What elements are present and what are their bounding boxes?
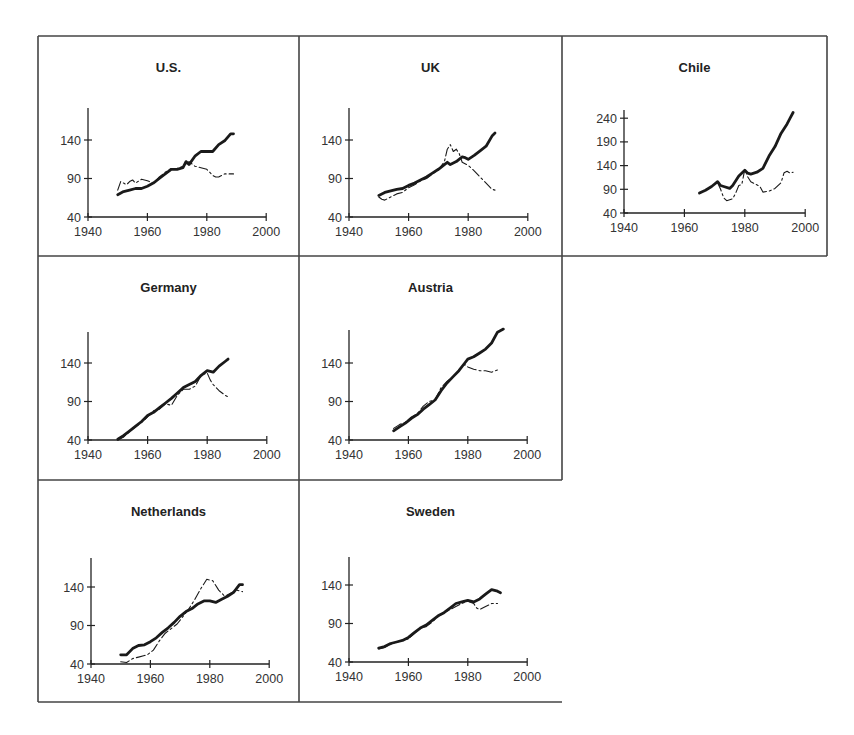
x-tick-label: 1980 <box>454 225 482 239</box>
y-tick-label: 140 <box>596 159 617 173</box>
y-tick-label: 190 <box>596 135 617 149</box>
line-chart: 40901401940196019802000 <box>38 256 299 480</box>
y-tick-label: 90 <box>328 395 342 409</box>
x-tick-label: 1940 <box>335 448 363 462</box>
line-chart: 40901401940196019802000 <box>38 36 299 256</box>
y-tick-label: 40 <box>328 211 342 225</box>
x-tick-label: 1980 <box>193 448 221 462</box>
line-chart: 40901401902401940196019802000 <box>562 36 827 256</box>
y-tick-label: 90 <box>328 617 342 631</box>
series-line-bold <box>118 359 228 439</box>
x-tick-label: 1940 <box>335 225 363 239</box>
x-tick-label: 1940 <box>610 221 638 235</box>
series-line-thin <box>121 579 243 662</box>
y-tick-label: 140 <box>321 357 342 371</box>
y-tick-label: 140 <box>63 581 84 595</box>
x-tick-label: 2000 <box>513 670 541 684</box>
series-line-bold <box>118 134 234 195</box>
y-tick-label: 40 <box>70 658 84 672</box>
x-tick-label: 1980 <box>454 448 482 462</box>
y-tick-label: 40 <box>67 211 81 225</box>
line-chart: 40901401940196019802000 <box>299 36 562 256</box>
y-tick-label: 40 <box>603 207 617 221</box>
x-tick-label: 1960 <box>394 670 422 684</box>
chart-panel-us: U.S.40901401940196019802000 <box>38 36 299 256</box>
y-tick-label: 90 <box>603 183 617 197</box>
line-chart: 40901401940196019802000 <box>38 480 299 702</box>
y-tick-label: 40 <box>328 434 342 448</box>
y-tick-label: 140 <box>60 357 81 371</box>
x-tick-label: 1980 <box>731 221 759 235</box>
y-tick-label: 90 <box>67 395 81 409</box>
chart-panel-sweden: Sweden40901401940196019802000 <box>299 480 562 702</box>
x-tick-label: 1980 <box>454 670 482 684</box>
x-tick-label: 1960 <box>395 225 423 239</box>
y-tick-label: 90 <box>67 172 81 186</box>
x-tick-label: 1940 <box>74 225 102 239</box>
y-tick-label: 140 <box>321 579 342 593</box>
series-line-thin <box>118 373 228 440</box>
y-tick-label: 140 <box>321 134 342 148</box>
x-tick-label: 2000 <box>255 672 283 686</box>
y-tick-label: 90 <box>70 619 84 633</box>
series-line-bold <box>379 590 501 649</box>
y-tick-label: 40 <box>328 656 342 670</box>
y-tick-label: 90 <box>328 172 342 186</box>
chart-panel-austria: Austria40901401940196019802000 <box>299 256 562 480</box>
x-tick-label: 2000 <box>513 448 541 462</box>
x-tick-label: 1960 <box>670 221 698 235</box>
x-tick-label: 1960 <box>136 672 164 686</box>
chart-panel-germany: Germany40901401940196019802000 <box>38 256 299 480</box>
chart-panel-netherlands: Netherlands40901401940196019802000 <box>38 480 299 702</box>
line-chart: 40901401940196019802000 <box>299 480 562 702</box>
y-tick-label: 140 <box>60 134 81 148</box>
x-tick-label: 1940 <box>77 672 105 686</box>
x-tick-label: 1940 <box>335 670 363 684</box>
x-tick-label: 2000 <box>791 221 819 235</box>
line-chart: 40901401940196019802000 <box>299 256 562 480</box>
x-tick-label: 2000 <box>514 225 542 239</box>
x-tick-label: 2000 <box>252 225 280 239</box>
chart-panel-uk: UK40901401940196019802000 <box>299 36 562 256</box>
x-tick-label: 1960 <box>394 448 422 462</box>
series-line-bold <box>379 133 495 195</box>
x-tick-label: 1960 <box>133 225 161 239</box>
chart-panel-chile: Chile40901401902401940196019802000 <box>562 36 827 256</box>
x-tick-label: 1960 <box>134 448 162 462</box>
y-tick-label: 40 <box>67 434 81 448</box>
x-tick-label: 1940 <box>74 448 102 462</box>
series-line-thin <box>118 162 234 191</box>
y-tick-label: 240 <box>596 112 617 126</box>
series-line-bold <box>700 113 794 194</box>
small-multiples-figure: U.S.40901401940196019802000UK40901401940… <box>0 0 854 735</box>
series-line-thin <box>379 601 498 649</box>
series-line-thin <box>394 365 498 429</box>
x-tick-label: 1980 <box>196 672 224 686</box>
x-tick-label: 1980 <box>193 225 221 239</box>
x-tick-label: 2000 <box>253 448 281 462</box>
